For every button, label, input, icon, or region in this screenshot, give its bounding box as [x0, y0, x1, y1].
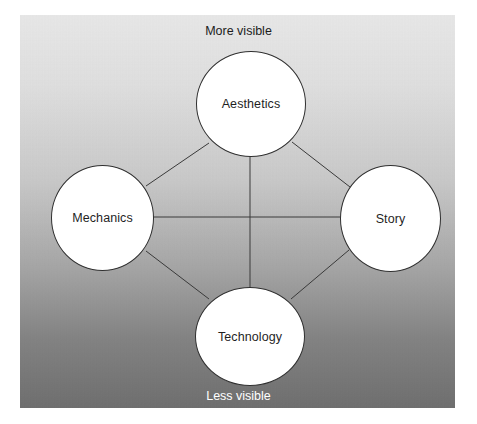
edge-mechanics-technology — [146, 251, 209, 299]
edge-aesthetics-story — [292, 142, 350, 187]
diagram-canvas: More visible Aesthetics Mechanics Story … — [0, 0, 477, 424]
node-aesthetics[interactable]: Aesthetics — [196, 51, 306, 157]
node-mechanics[interactable]: Mechanics — [51, 165, 154, 271]
node-story[interactable]: Story — [340, 165, 441, 272]
edge-story-technology — [291, 250, 349, 299]
axis-caption-bottom: Less visible — [0, 389, 477, 403]
node-technology[interactable]: Technology — [195, 287, 305, 386]
node-mechanics-label: Mechanics — [72, 211, 133, 225]
node-technology-label: Technology — [218, 330, 282, 344]
node-story-label: Story — [376, 212, 406, 226]
edge-mechanics-aesthetics — [146, 143, 209, 186]
axis-caption-top: More visible — [0, 24, 477, 38]
node-aesthetics-label: Aesthetics — [222, 97, 281, 111]
